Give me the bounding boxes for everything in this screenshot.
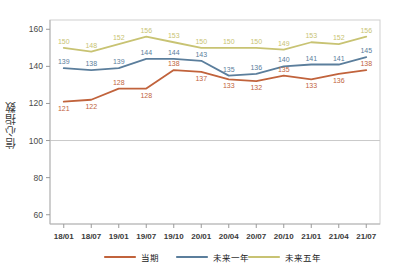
chart-legend[interactable]: 当期未来一年未来五年 [105, 253, 321, 263]
point-label-未来一年-18/07: 138 [85, 60, 97, 67]
point-label-当期-21/07: 138 [360, 60, 372, 67]
point-label-当期-19/01: 128 [113, 79, 125, 86]
y-tick-label-120: 120 [29, 98, 43, 108]
y-axis: 6080100120140160 [29, 20, 50, 224]
point-label-未来五年-20/04: 150 [223, 38, 235, 45]
point-label-未来一年-21/01: 141 [305, 55, 317, 62]
series-line-当期[interactable] [64, 70, 367, 102]
point-label-当期-20/07: 132 [250, 84, 262, 91]
x-tick-label-19/07: 19/07 [136, 232, 157, 241]
series-line-未来一年[interactable] [64, 57, 367, 76]
point-label-未来一年-19/10: 144 [168, 49, 180, 56]
point-label-未来五年-18/01: 150 [58, 38, 70, 45]
point-label-未来一年-18/01: 139 [58, 58, 70, 65]
point-label-未来五年-20/01: 150 [195, 38, 207, 45]
point-label-未来一年-20/10: 140 [278, 56, 290, 63]
y-tick-label-160: 160 [29, 24, 43, 34]
point-label-未来五年-21/04: 152 [333, 34, 345, 41]
x-tick-label-18/01: 18/01 [54, 232, 75, 241]
x-tick-label-21/04: 21/04 [329, 232, 350, 241]
point-label-未来一年-19/01: 139 [113, 58, 125, 65]
point-label-当期-21/04: 136 [333, 77, 345, 84]
confidence-index-line-chart: 信心指数 6080100120140160 18/0118/0719/0119/… [0, 0, 405, 274]
point-label-未来一年-21/07: 145 [360, 47, 372, 54]
point-label-当期-20/10: 135 [278, 66, 290, 73]
chart-canvas: 6080100120140160 18/0118/0719/0119/0719/… [0, 0, 405, 274]
point-label-未来五年-20/07: 150 [250, 38, 262, 45]
y-tick-label-140: 140 [29, 61, 43, 71]
x-tick-label-19/10: 19/10 [164, 232, 185, 241]
legend-label-未来五年[interactable]: 未来五年 [285, 253, 321, 263]
series-line-未来五年[interactable] [64, 37, 367, 52]
point-label-未来一年-20/04: 135 [223, 66, 235, 73]
x-tick-label-20/04: 20/04 [219, 232, 240, 241]
x-tick-label-21/07: 21/07 [356, 232, 377, 241]
point-label-当期-20/04: 133 [223, 82, 235, 89]
y-tick-label-80: 80 [34, 173, 44, 183]
point-label-未来五年-19/10: 153 [168, 32, 180, 39]
point-label-未来五年-21/07: 156 [360, 27, 372, 34]
point-label-未来一年-19/07: 144 [140, 49, 152, 56]
y-tick-label-60: 60 [34, 210, 44, 220]
point-label-未来五年-20/10: 149 [278, 40, 290, 47]
point-label-当期-18/07: 122 [85, 103, 97, 110]
x-tick-label-20/01: 20/01 [191, 232, 212, 241]
point-label-未来一年-21/04: 141 [333, 55, 345, 62]
point-label-未来一年-20/01: 143 [195, 51, 207, 58]
point-label-当期-19/10: 138 [168, 60, 180, 67]
x-tick-label-18/07: 18/07 [81, 232, 102, 241]
point-label-未来一年-20/07: 136 [250, 64, 262, 71]
point-label-未来五年-18/07: 148 [85, 42, 97, 49]
point-label-当期-19/07: 128 [140, 92, 152, 99]
x-tick-label-21/01: 21/01 [301, 232, 322, 241]
x-tick-label-20/07: 20/07 [246, 232, 267, 241]
point-label-未来五年-21/01: 153 [305, 32, 317, 39]
legend-label-当期[interactable]: 当期 [141, 253, 159, 263]
y-tick-label-100: 100 [29, 136, 43, 146]
plot-area-border [50, 20, 380, 224]
x-tick-label-19/01: 19/01 [109, 232, 130, 241]
point-label-当期-18/01: 121 [58, 105, 70, 112]
series-lines [64, 37, 367, 102]
point-label-未来五年-19/07: 156 [140, 27, 152, 34]
point-label-未来五年-19/01: 152 [113, 34, 125, 41]
x-tick-label-20/10: 20/10 [274, 232, 295, 241]
point-label-当期-21/01: 133 [305, 82, 317, 89]
x-axis: 18/0118/0719/0119/0719/1020/0120/0420/07… [50, 224, 380, 241]
legend-label-未来一年[interactable]: 未来一年 [213, 253, 249, 263]
point-label-当期-20/01: 137 [195, 75, 207, 82]
